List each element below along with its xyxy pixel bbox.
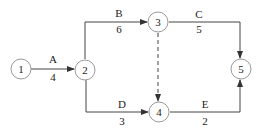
node-5: 5 bbox=[231, 59, 251, 79]
edge-b-activity: B bbox=[115, 7, 122, 19]
svg-text:1: 1 bbox=[18, 63, 24, 75]
node-4: 4 bbox=[149, 102, 169, 122]
svg-text:5: 5 bbox=[238, 63, 244, 75]
edge-d-activity: D bbox=[118, 98, 126, 110]
edge-b-duration: 6 bbox=[116, 23, 122, 35]
edge-e-duration: 2 bbox=[202, 115, 208, 127]
node-3: 3 bbox=[148, 12, 168, 32]
edge-d bbox=[86, 80, 148, 112]
svg-text:2: 2 bbox=[82, 64, 88, 76]
edge-c-activity: C bbox=[195, 8, 202, 20]
edge-d-duration: 3 bbox=[119, 115, 125, 127]
edge-c-duration: 5 bbox=[196, 23, 202, 35]
svg-text:3: 3 bbox=[155, 16, 161, 28]
edge-a-duration: 4 bbox=[50, 71, 56, 83]
edge-a-activity: A bbox=[49, 53, 57, 65]
node-2: 2 bbox=[75, 60, 95, 80]
edge-e-activity: E bbox=[202, 98, 209, 110]
svg-text:4: 4 bbox=[156, 106, 162, 118]
network-diagram: A 4 B 6 C 5 D 3 E 2 1 2 3 4 5 bbox=[0, 0, 262, 135]
node-1: 1 bbox=[11, 59, 31, 79]
edge-c bbox=[169, 22, 240, 58]
